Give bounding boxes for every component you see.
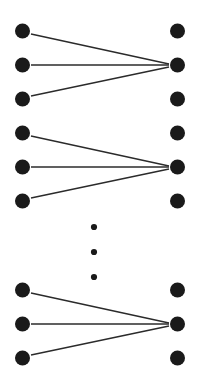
ellipsis-dot-1 xyxy=(91,224,97,230)
graph-node-L7 xyxy=(15,283,30,298)
graph-node-L4 xyxy=(15,126,30,141)
graph-node-L2 xyxy=(15,58,30,73)
graph-node-R4 xyxy=(170,126,185,141)
ellipsis-dot-2 xyxy=(91,249,97,255)
graph-node-L3 xyxy=(15,92,30,107)
ellipsis-dot-3 xyxy=(91,274,97,280)
graph-node-L5 xyxy=(15,160,30,175)
graph-node-R3 xyxy=(170,92,185,107)
graph-node-L1 xyxy=(15,24,30,39)
graph-node-R9 xyxy=(170,351,185,366)
graph-node-R2 xyxy=(170,58,185,73)
graph-node-L8 xyxy=(15,317,30,332)
graph-node-L6 xyxy=(15,194,30,209)
graph-node-R5 xyxy=(170,160,185,175)
graph-node-R1 xyxy=(170,24,185,39)
graph-node-L9 xyxy=(15,351,30,366)
graph-node-R8 xyxy=(170,317,185,332)
graph-node-R7 xyxy=(170,283,185,298)
figure-canvas xyxy=(0,0,203,382)
bipartite-graph-svg xyxy=(0,0,203,382)
graph-node-R6 xyxy=(170,194,185,209)
